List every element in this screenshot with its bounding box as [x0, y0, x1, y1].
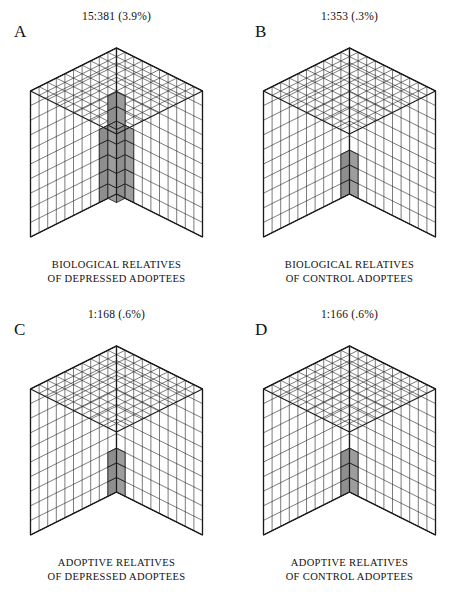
panel-a-svg — [0, 30, 233, 252]
panel-b-cube-diagram — [233, 30, 466, 252]
panel-b: 1:353 (.3%) B BIOLOGICAL RELATIVES OF CO… — [233, 0, 466, 298]
panel-c: 1:168 (.6%) C ADOPTIVE RELATIVES OF DEPR… — [0, 298, 233, 596]
panel-a: 15:381 (3.9%) A BIOLOGICAL RELATIVES OF … — [0, 0, 233, 298]
panel-d-ratio-label: 1:166 (.6%) — [233, 308, 466, 320]
panel-b-svg — [233, 30, 466, 252]
panel-d-cube-diagram — [233, 328, 466, 550]
panel-a-caption: BIOLOGICAL RELATIVES OF DEPRESSED ADOPTE… — [0, 258, 233, 286]
panel-d: 1:166 (.6%) D ADOPTIVE RELATIVES OF CONT… — [233, 298, 466, 596]
panel-b-ratio-label: 1:353 (.3%) — [233, 10, 466, 22]
panel-d-svg — [233, 328, 466, 550]
panel-b-caption-line-2: OF CONTROL ADOPTEES — [233, 272, 466, 286]
panel-c-caption-line-2: OF DEPRESSED ADOPTEES — [0, 570, 233, 584]
panel-c-ratio-label: 1:168 (.6%) — [0, 308, 233, 320]
panel-c-caption: ADOPTIVE RELATIVES OF DEPRESSED ADOPTEES — [0, 556, 233, 584]
panel-c-cube-diagram — [0, 328, 233, 550]
panel-d-caption-line-1: ADOPTIVE RELATIVES — [233, 556, 466, 570]
panel-a-caption-line-2: OF DEPRESSED ADOPTEES — [0, 272, 233, 286]
panel-a-cube-diagram — [0, 30, 233, 252]
panel-a-ratio-label: 15:381 (3.9%) — [0, 10, 233, 22]
panel-c-caption-line-1: ADOPTIVE RELATIVES — [0, 556, 233, 570]
panel-b-caption-line-1: BIOLOGICAL RELATIVES — [233, 258, 466, 272]
panel-d-caption: ADOPTIVE RELATIVES OF CONTROL ADOPTEES — [233, 556, 466, 584]
panel-c-svg — [0, 328, 233, 550]
figure-panel-grid: 15:381 (3.9%) A BIOLOGICAL RELATIVES OF … — [0, 0, 466, 596]
panel-d-caption-line-2: OF CONTROL ADOPTEES — [233, 570, 466, 584]
panel-b-caption: BIOLOGICAL RELATIVES OF CONTROL ADOPTEES — [233, 258, 466, 286]
panel-a-caption-line-1: BIOLOGICAL RELATIVES — [0, 258, 233, 272]
